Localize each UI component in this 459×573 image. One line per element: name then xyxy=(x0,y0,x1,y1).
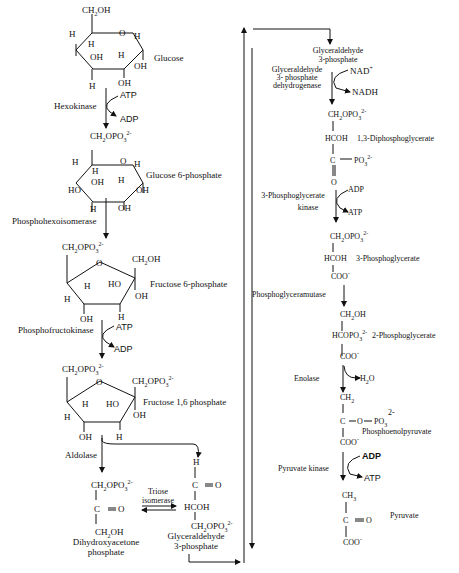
label-2-phosphoglycerate: 2-Phosphoglycerate xyxy=(372,331,436,341)
g3p-left-h: H xyxy=(193,457,200,467)
f6p-h3: H xyxy=(118,312,125,322)
2pg-hcopo3: HCOPO32- xyxy=(332,331,367,341)
g6p-ch2opo3: CH2OPO32- xyxy=(90,131,132,141)
enzyme-g3p-dehydrogenase: Glyceraldehyde3- phosphatedehydrogenase xyxy=(266,66,328,90)
f16bp-h3: H xyxy=(116,432,123,442)
pyruvate-ch3: CH3 xyxy=(342,491,356,501)
label-1-3-diphosphoglycerate: 1,3-Diphosphoglycerate xyxy=(357,134,434,144)
label-dihydroxyacetone-phosphate: Dihydroxyacetonephosphate xyxy=(70,537,142,557)
f16bp-oh2: OH xyxy=(79,432,92,442)
cofactor-nadh: NADH xyxy=(352,87,378,97)
f16bp-ch2opo3-left: CH2OPO32- xyxy=(62,364,104,374)
enzyme-phosphofructokinase: Phosphofructokinase xyxy=(18,325,94,335)
g3p-left-ch2opo3: CH2OPO32- xyxy=(191,521,233,531)
cofactor-atp-4: ATP xyxy=(364,473,381,483)
g6p-h2: H xyxy=(92,166,99,176)
glucose-oh2: OH xyxy=(134,61,147,71)
dpg-po3: PO32- xyxy=(354,156,372,166)
f6p-oh2: OH xyxy=(80,314,93,324)
g6p-oh3: OH xyxy=(118,203,131,213)
3pg-hcoh: HCOH xyxy=(324,254,347,264)
label-glucose: Glucose xyxy=(154,53,184,63)
f6p-h1: H xyxy=(84,281,91,291)
enzyme-triose-isomerase: Trioseisomerase xyxy=(136,487,180,505)
glucose-oh1: OH xyxy=(90,52,103,62)
3pg-ch2opo3: CH2OPO32- xyxy=(330,232,368,242)
g6p-h4: H xyxy=(118,175,125,185)
cofactor-atp-3: ATP xyxy=(348,208,362,218)
f6p-ring-o: O xyxy=(96,258,103,268)
enzyme-aldolase: Aldolase xyxy=(65,450,97,460)
pep-po3: PO3 xyxy=(374,417,387,427)
cofactor-atp-1: ATP xyxy=(120,90,137,100)
label-3-phosphoglycerate: 3-Phosphoglycerate xyxy=(356,254,420,264)
glucose-h4: H xyxy=(118,50,125,60)
f6p-h2: H xyxy=(64,294,71,304)
f6p-ch2oh: CH2OH xyxy=(132,254,161,264)
pyruvate-c: C xyxy=(343,516,348,526)
dhap-c: C xyxy=(94,504,100,514)
enzyme-phosphohexoisomerase: Phosphohexoisomerase xyxy=(12,216,97,226)
enzyme-pyruvate-kinase: Pyruvate kinase xyxy=(278,464,329,474)
g6p-h5: H xyxy=(90,204,97,214)
cofactor-adp-4: ADP xyxy=(362,451,381,461)
enzyme-enolase: Enolase xyxy=(294,374,319,384)
enzyme-hexokinase: Hexokinase xyxy=(54,101,97,111)
cofactor-atp-2: ATP xyxy=(116,322,133,332)
f16bp-h1: H xyxy=(82,399,89,409)
pep-c: C xyxy=(340,417,345,427)
pathway-arrows xyxy=(0,0,459,573)
label-fructose-1-6-phosphate: Fructose 1,6 phosphate xyxy=(143,397,226,407)
cofactor-nad: NAD+ xyxy=(350,66,373,76)
g3p-left-c: C xyxy=(192,480,198,490)
dpg-ch2opo3: CH2OPO32- xyxy=(328,110,366,120)
cofactor-adp-2: ADP xyxy=(114,344,133,354)
g6p-ring-o: O xyxy=(120,156,127,166)
label-glyceraldehyde-3-phosphate-right: Glyceraldehyde3-phosphate xyxy=(305,46,371,64)
label-fructose-6-phosphate: Fructose 6-phosphate xyxy=(150,279,227,289)
pep-coo: COO- xyxy=(340,438,359,448)
glucose-oh3: OH xyxy=(118,78,131,88)
f16bp-h2: H xyxy=(64,412,71,422)
enzyme-phosphoglycerate-kinase: 3-Phosphoglyceratekinase xyxy=(254,190,332,214)
3pg-coo: COO- xyxy=(331,272,350,282)
pyruvate-o: O xyxy=(366,516,372,526)
pep-o: O xyxy=(357,417,363,427)
g6p-ho: HO xyxy=(68,185,81,195)
g3p-left-o: O xyxy=(215,480,222,490)
glucose-h5: H xyxy=(89,81,96,91)
dpg-hcoh: HCOH xyxy=(325,134,348,144)
g6p-oh2: OH xyxy=(136,185,149,195)
pyruvate-coo: COO- xyxy=(343,538,362,548)
f16bp-ch2opo3-right: CH2OPO32- xyxy=(132,376,174,386)
label-glyceraldehyde-3-phosphate-left: Glyceraldehyde3-phosphate xyxy=(166,531,226,551)
g6p-h3: H xyxy=(134,159,141,169)
dhap-ch2oh: CH2OH xyxy=(95,527,124,537)
glucose-ch2oh: CH2OH xyxy=(82,5,111,15)
label-pyruvate: Pyruvate xyxy=(390,511,418,521)
dhap-o: O xyxy=(118,504,125,514)
f6p-oh: OH xyxy=(135,291,148,301)
f16bp-oh: OH xyxy=(133,410,146,420)
dhap-ch2opo3: CH2OPO32- xyxy=(91,480,133,490)
pep-ch2: CH2 xyxy=(340,393,354,403)
g6p-h1: H xyxy=(72,157,79,167)
g3p-left-hcoh: HCOH xyxy=(184,502,210,512)
glucose-h2: H xyxy=(88,39,95,49)
label-phosphoenolpyruvate: Phosphoenolpyruvate xyxy=(362,427,431,437)
cofactor-adp-1: ADP xyxy=(120,114,139,124)
f6p-ch2opo3: CH2OPO32- xyxy=(62,242,104,252)
glucose-ring-o: O xyxy=(119,28,126,38)
enzyme-phosphoglyceramutase: Phosphoglyceramutase xyxy=(252,290,326,300)
f16bp-ring-o: O xyxy=(96,377,103,387)
dpg-o: O xyxy=(331,178,337,188)
glucose-h1: H xyxy=(69,29,76,39)
dpg-c: C xyxy=(330,156,335,166)
label-glucose-6-phosphate: Glucose 6-phosphate xyxy=(146,170,222,180)
cofactor-adp-3: ADP xyxy=(348,185,364,195)
f16bp-ho: HO xyxy=(106,399,119,409)
pep-charge: 2- xyxy=(388,408,395,418)
glucose-h3: H xyxy=(134,31,141,41)
g6p-oh1: OH xyxy=(91,177,104,187)
2pg-coo: COO- xyxy=(340,352,359,362)
